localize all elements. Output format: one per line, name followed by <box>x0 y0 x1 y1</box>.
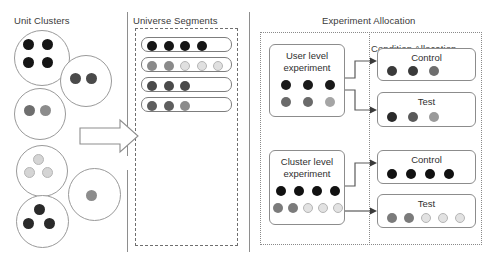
arrowhead-cluster-control-icon <box>370 160 377 167</box>
diagram-canvas: Unit Clusters Universe Segments Experime… <box>0 0 488 259</box>
arrowhead-cluster-test-icon <box>370 208 377 215</box>
connector-user-to-control <box>345 61 370 78</box>
arrowhead-user-control-icon <box>370 58 377 65</box>
block-arrow-right-icon <box>80 120 138 152</box>
connector-cluster-to-control <box>345 163 370 186</box>
connectors-layer <box>0 0 488 259</box>
connector-user-to-test <box>345 90 370 110</box>
arrowhead-user-test-icon <box>370 107 377 114</box>
